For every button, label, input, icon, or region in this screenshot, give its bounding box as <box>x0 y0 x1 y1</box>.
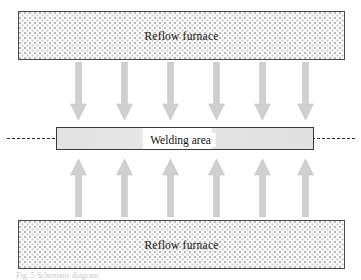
heat-arrow-up-3 <box>162 157 179 217</box>
furnace-box-bottom: Reflow furnace <box>18 220 345 269</box>
heat-arrow-down-4 <box>208 62 225 122</box>
heat-arrow-down-3 <box>162 62 179 122</box>
heat-arrow-down-2 <box>116 62 133 122</box>
heat-arrow-down-1 <box>70 62 87 122</box>
furnace-box-top: Reflow furnace <box>18 11 345 60</box>
furnace-bottom-label: Reflow furnace <box>19 239 344 251</box>
heat-arrow-up-2 <box>116 157 133 217</box>
heat-arrow-down-5 <box>254 62 271 122</box>
heat-arrow-up-5 <box>254 157 271 217</box>
heat-arrow-down-6 <box>297 62 314 122</box>
figure-caption: Fig. 5 Schematic diagram <box>16 271 346 280</box>
heat-arrow-up-4 <box>208 157 225 217</box>
furnace-top-label: Reflow furnace <box>19 30 344 42</box>
heat-arrow-up-1 <box>70 157 87 217</box>
heat-arrow-up-6 <box>297 157 314 217</box>
reflow-furnace-diagram: Reflow furnace Welding area Re <box>0 0 361 280</box>
welding-area-label: Welding area <box>145 133 216 147</box>
